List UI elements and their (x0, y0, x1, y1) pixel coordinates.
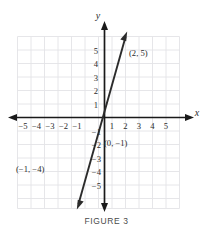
y-tick-2: 2 (94, 86, 98, 96)
x-tick-neg5: −5 (18, 121, 27, 131)
y-axis-tick-labels-negative: −1 −2 −3 −4 −5 (92, 127, 102, 191)
coordinate-plane-graph: −5 −4 −3 −2 −1 1 2 3 4 5 5 4 3 2 1 −1 −2… (0, 0, 213, 239)
x-tick-3: 3 (137, 121, 141, 131)
x-axis-tick-labels-positive: 1 2 3 4 5 (110, 121, 168, 131)
y-tick-neg2: −2 (92, 140, 101, 150)
y-tick-1: 1 (94, 100, 98, 110)
y-tick-neg5: −5 (92, 181, 101, 191)
y-axis-label: y (95, 10, 101, 21)
x-tick-4: 4 (150, 121, 155, 131)
point-label-neg1-neg4: (−1, −4) (16, 164, 44, 174)
x-tick-2: 2 (123, 121, 127, 131)
x-tick-5: 5 (164, 121, 168, 131)
y-axis-tick-labels-positive: 5 4 3 2 1 (94, 46, 99, 110)
figure-caption: FIGURE 3 (0, 216, 213, 226)
y-tick-neg3: −3 (92, 154, 101, 164)
point-label-0-neg1: (0, −1) (104, 138, 128, 148)
y-tick-neg1: −1 (92, 127, 101, 137)
y-tick-5: 5 (94, 46, 98, 56)
y-tick-3: 3 (94, 73, 98, 83)
x-tick-neg1: −1 (72, 121, 81, 131)
x-tick-neg4: −4 (32, 121, 42, 131)
plotted-line (77, 32, 127, 210)
figure-3-container: −5 −4 −3 −2 −1 1 2 3 4 5 5 4 3 2 1 −1 −2… (0, 0, 213, 239)
y-tick-neg4: −4 (92, 167, 102, 177)
y-tick-4: 4 (94, 59, 99, 69)
x-tick-1: 1 (110, 121, 114, 131)
x-axis-label: x (194, 107, 200, 118)
x-tick-neg3: −3 (45, 121, 54, 131)
point-label-2-5: (2, 5) (129, 48, 148, 58)
x-tick-neg2: −2 (59, 121, 68, 131)
x-axis-tick-labels-negative: −5 −4 −3 −2 −1 (18, 121, 81, 131)
